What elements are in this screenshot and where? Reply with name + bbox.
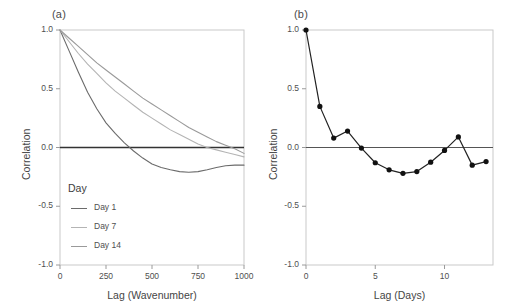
legend-swatch-1 bbox=[71, 227, 87, 228]
panel-a-xtick-2: 500 bbox=[132, 271, 172, 281]
panel-a-xtick-0: 0 bbox=[40, 271, 80, 281]
panel-b-xtick-0: 0 bbox=[286, 271, 326, 281]
panel-a-ytick-4: -1.0 bbox=[20, 259, 53, 269]
series-line-1 bbox=[60, 30, 244, 157]
figure-container: (a) 025050075010001.00.50.0-0.5-1.0Lag (… bbox=[0, 0, 522, 306]
panel-b-xtick-1: 5 bbox=[355, 271, 395, 281]
data-point-7 bbox=[400, 171, 405, 176]
panel-a-xtick-4: 1000 bbox=[224, 271, 264, 281]
data-point-4 bbox=[359, 145, 364, 150]
data-point-9 bbox=[428, 160, 433, 165]
data-point-8 bbox=[414, 169, 419, 174]
panel-a-ytick-0: 1.0 bbox=[20, 24, 53, 34]
legend-swatch-0 bbox=[71, 208, 87, 209]
panel-a-ytick-3: -0.5 bbox=[20, 200, 53, 210]
legend-label-1: Day 7 bbox=[94, 221, 116, 231]
data-point-5 bbox=[373, 160, 378, 165]
series-line-0 bbox=[60, 30, 244, 172]
data-point-0 bbox=[303, 27, 308, 32]
legend-title: Day bbox=[68, 182, 87, 194]
data-point-11 bbox=[456, 134, 461, 139]
panel-b-ytick-0: 1.0 bbox=[266, 24, 299, 34]
panel-b-ytick-4: -1.0 bbox=[266, 259, 299, 269]
panel-b-x-axis-title: Lag (Days) bbox=[306, 289, 493, 301]
data-point-13 bbox=[483, 159, 488, 164]
panel-a-x-axis-title: Lag (Wavenumber) bbox=[60, 289, 244, 301]
data-point-10 bbox=[442, 148, 447, 153]
series-line-correlation bbox=[306, 30, 486, 173]
panel-a-xtick-1: 250 bbox=[86, 271, 126, 281]
panel-b-ytick-3: -0.5 bbox=[266, 200, 299, 210]
panel-a: (a) 025050075010001.00.50.0-0.5-1.0Lag (… bbox=[0, 0, 261, 306]
panel-b: (b) 05101.00.50.0-0.5-1.0Lag (Days)Corre… bbox=[261, 0, 522, 306]
panel-b-ytick-1: 0.5 bbox=[266, 83, 299, 93]
data-point-12 bbox=[470, 163, 475, 168]
data-point-3 bbox=[345, 128, 350, 133]
panel-a-ytick-1: 0.5 bbox=[20, 83, 53, 93]
legend-label-2: Day 14 bbox=[94, 240, 121, 250]
panel-b-xtick-2: 10 bbox=[425, 271, 465, 281]
data-point-2 bbox=[331, 136, 336, 141]
legend-label-0: Day 1 bbox=[94, 202, 116, 212]
panel-a-y-axis-title: Correlation bbox=[20, 128, 32, 179]
data-point-6 bbox=[387, 167, 392, 172]
panel-a-xtick-3: 750 bbox=[178, 271, 218, 281]
data-point-1 bbox=[317, 104, 322, 109]
legend-swatch-2 bbox=[71, 246, 87, 247]
panel-b-y-axis-title: Correlation bbox=[267, 128, 279, 179]
panel-b-plot bbox=[261, 0, 522, 306]
